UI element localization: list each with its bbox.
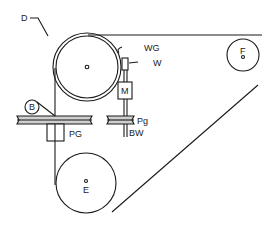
diagram-canvas: D WG W M F B PG Pg BW E	[0, 0, 275, 227]
label-f: F	[240, 46, 246, 56]
label-w: W	[153, 58, 162, 68]
label-d: D	[21, 13, 28, 23]
leader-d	[30, 18, 48, 36]
label-bw: BW	[129, 128, 144, 138]
leader-w	[129, 62, 138, 63]
mechanism-diagram: D WG W M F B PG Pg BW E	[0, 0, 275, 227]
belt-diagonal	[112, 85, 258, 212]
pulley-e-axle	[85, 180, 88, 183]
drum-d-outer	[53, 33, 121, 101]
wheel-w	[122, 58, 128, 70]
label-pg-large: PG	[69, 129, 82, 139]
drum-d-inner	[56, 36, 118, 98]
label-b: B	[29, 102, 35, 112]
label-pg-small: Pg	[137, 116, 148, 126]
label-wg: WG	[144, 43, 160, 53]
roller-b-belt	[37, 102, 55, 116]
label-e: E	[83, 185, 89, 195]
label-m: M	[121, 86, 129, 96]
leader-wg	[118, 47, 122, 53]
drum-d-axle	[85, 65, 89, 69]
